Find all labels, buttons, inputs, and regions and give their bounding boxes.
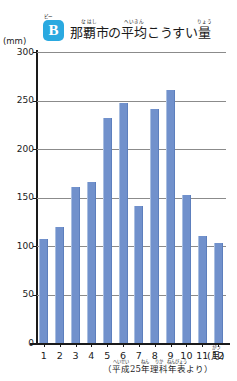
title-segment-4: りょう量 [198, 25, 211, 41]
bar-month-4 [87, 182, 96, 343]
x-axis-unit-label: がつ(月) [207, 350, 224, 361]
title-ruby-2: へいきん [124, 19, 145, 24]
bar-month-1 [39, 239, 48, 343]
x-tick-label-3: 3 [68, 350, 84, 361]
title-base-3: こうすい [147, 25, 198, 41]
source-segment-2: ねん年 [141, 364, 150, 375]
y-tick-label-150: 150 [17, 193, 34, 202]
x-tick-mark-7 [139, 343, 140, 347]
y-tick-label-250: 250 [17, 96, 34, 105]
title-segment-3: こうすい [147, 25, 198, 41]
b-logo-letter: B [43, 20, 64, 41]
title-ruby-0: なはし [81, 19, 97, 24]
source-note: （へいせい平成25ねん年りか理科ねんぴょう年表より） [103, 364, 213, 375]
y-tick-mark-150 [33, 198, 37, 199]
y-tick-mark-0 [33, 343, 37, 344]
source-open: （ [103, 364, 112, 374]
bar-month-9 [166, 90, 175, 343]
gridline-150 [36, 198, 226, 199]
bar-month-11 [198, 236, 207, 343]
bar-month-2 [55, 227, 64, 343]
x-tick-label-4: 4 [83, 350, 99, 361]
bar-month-12 [214, 243, 223, 343]
bar-month-7 [134, 206, 143, 343]
y-tick-mark-100 [33, 246, 37, 247]
title-segment-1: の [108, 25, 121, 41]
source-segment-0: へいせい平成 [112, 364, 130, 375]
source-segment-5: より [186, 364, 204, 375]
source-close: ） [204, 364, 213, 374]
x-tick-mark-6 [123, 343, 124, 347]
title-base-0: 那覇市 [70, 25, 108, 41]
title-base-1: の [108, 25, 121, 41]
bar-month-5 [103, 118, 112, 343]
x-tick-mark-5 [107, 343, 108, 347]
gridline-300 [36, 52, 226, 53]
bar-month-3 [71, 187, 80, 343]
b-logo: ビー B [42, 15, 65, 41]
x-axis-unit-ruby: がつ [212, 345, 220, 350]
x-tick-mark-3 [76, 343, 77, 347]
title-ruby-4: りょう [197, 19, 213, 24]
bar-month-6 [119, 103, 128, 343]
x-tick-mark-8 [155, 343, 156, 347]
x-tick-mark-1 [44, 343, 45, 347]
gridline-200 [36, 149, 226, 150]
page-title: なはし那覇市のへいきん平均こうすいりょう量 [70, 18, 211, 41]
y-tick-label-300: 300 [17, 48, 34, 57]
title-base-4: 量 [198, 25, 211, 41]
b-logo-furigana: ビー [44, 14, 53, 19]
x-tick-mark-4 [91, 343, 92, 347]
y-tick-label-200: 200 [17, 145, 34, 154]
x-axis-unit-base: (月) [207, 350, 224, 361]
gridline-250 [36, 101, 226, 102]
chart-title-row: ビー B なはし那覇市のへいきん平均こうすいりょう量 [42, 11, 211, 41]
source-segment-1: 25 [130, 364, 141, 375]
y-tick-mark-250 [33, 101, 37, 102]
y-tick-mark-300 [33, 52, 37, 53]
bar-month-10 [182, 195, 191, 343]
x-tick-mark-11 [202, 343, 203, 347]
source-segment-3: りか理科 [150, 364, 168, 375]
x-tick-label-1: 1 [36, 350, 52, 361]
x-tick-mark-9 [171, 343, 172, 347]
title-base-2: 平均 [121, 25, 147, 41]
source-segment-4: ねんぴょう年表 [168, 364, 186, 375]
x-tick-mark-10 [186, 343, 187, 347]
plot-area [36, 52, 226, 343]
bar-month-8 [150, 109, 159, 343]
title-segment-0: なはし那覇市 [70, 25, 108, 41]
y-tick-mark-200 [33, 149, 37, 150]
x-tick-label-2: 2 [52, 350, 68, 361]
title-segment-2: へいきん平均 [121, 25, 147, 41]
y-tick-label-100: 100 [17, 242, 34, 251]
y-tick-mark-50 [33, 295, 37, 296]
chart-page: ビー B なはし那覇市のへいきん平均こうすいりょう量 (mm) 05010015… [0, 0, 237, 381]
x-tick-mark-2 [60, 343, 61, 347]
y-axis-ticks: 050100150200250300 [0, 0, 34, 381]
